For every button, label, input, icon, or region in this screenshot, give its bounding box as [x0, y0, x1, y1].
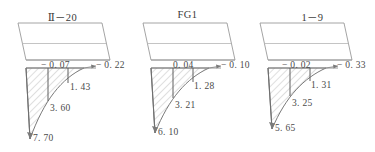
- value-level-1: 1. 43: [70, 82, 91, 92]
- panel-title: 1－9: [250, 9, 375, 24]
- deformation-diagram-figure: Ⅱ－20 − 0. 07 − 0. 22 1. 43 3. 60 7. 70: [0, 0, 375, 152]
- diagram-panel: FG1 0. 04 − 0. 10 1. 28 3. 21 6. 10: [125, 0, 250, 152]
- value-top-outer: − 0. 33: [337, 60, 366, 70]
- value-level-1: 1. 31: [311, 80, 332, 90]
- value-level-3: 7. 70: [33, 133, 54, 143]
- slab-top-face: [18, 23, 110, 60]
- value-top-inner: − 0. 07: [41, 60, 70, 70]
- diagram-graphic: [125, 0, 250, 152]
- value-level-3: 6. 10: [158, 127, 179, 137]
- value-top-outer: − 0. 22: [96, 60, 125, 70]
- value-top-outer: − 0. 10: [221, 60, 250, 70]
- panel-title: Ⅱ－20: [0, 9, 125, 24]
- value-level-2: 3. 60: [50, 103, 71, 113]
- panel-title: FG1: [125, 9, 250, 20]
- value-level-2: 3. 21: [175, 100, 196, 110]
- value-level-3: 5. 65: [275, 123, 296, 133]
- value-level-1: 1. 28: [194, 81, 215, 91]
- diagram-panel: Ⅱ－20 − 0. 07 − 0. 22 1. 43 3. 60 7. 70: [0, 0, 125, 152]
- slab-top-face: [260, 23, 352, 60]
- value-top-inner: − 0. 02: [282, 60, 311, 70]
- value-level-2: 3. 25: [292, 98, 313, 108]
- slab-top-face: [143, 23, 235, 60]
- value-top-inner: 0. 04: [173, 60, 194, 70]
- diagram-panel: 1－9 − 0. 02 − 0. 33 1. 31 3. 25 5. 65: [250, 0, 375, 152]
